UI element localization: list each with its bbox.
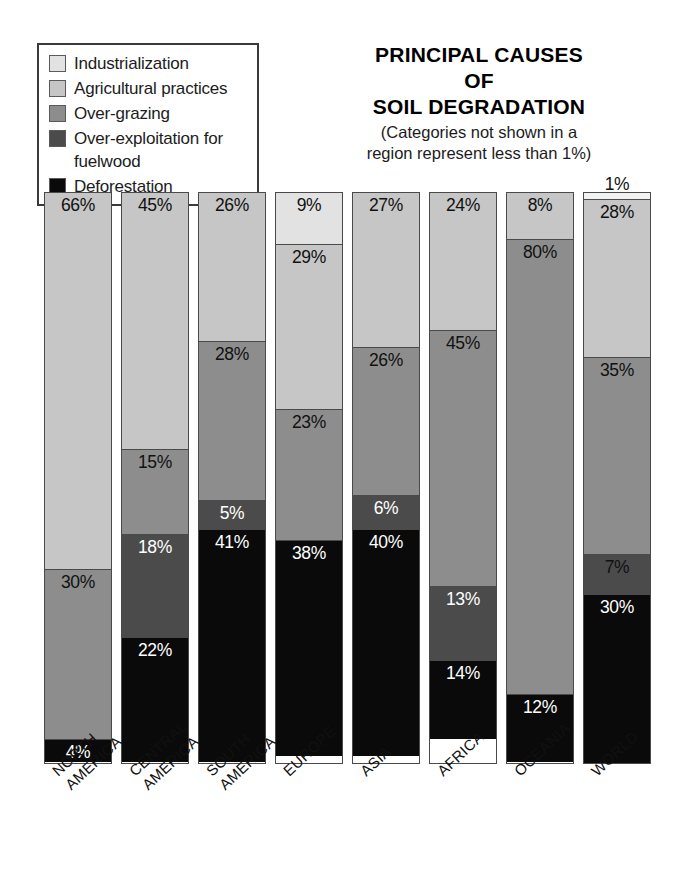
bar-segment-value-label: 8% — [507, 195, 573, 216]
legend-swatch-icon — [49, 105, 66, 122]
legend-swatch-icon — [49, 80, 66, 97]
bar-segment-value-label: 15% — [122, 452, 188, 473]
bar-segment-value-label: 45% — [430, 333, 496, 354]
subtitle-line-1: (Categories not shown in a — [296, 122, 662, 143]
bar-segment[interactable]: 18% — [122, 534, 188, 636]
bar-segment-value-label: 9% — [276, 195, 342, 216]
bar-segment[interactable]: 26% — [199, 193, 265, 341]
bar-segment-value-label: 66% — [45, 195, 111, 216]
title-line-1: PRINCIPAL CAUSES — [296, 42, 662, 68]
stacked-bar[interactable]: 45%15%18%22% — [121, 192, 189, 764]
bar-segment[interactable]: 5% — [199, 500, 265, 528]
bar-segment-value-label: 1% — [583, 174, 651, 194]
bar-segment[interactable]: 27% — [353, 193, 419, 347]
title-line-3: SOIL DEGRADATION — [296, 94, 662, 120]
bar-segment[interactable]: 80% — [507, 239, 573, 694]
legend-item-label: Industrialization — [74, 52, 189, 75]
bar-segment[interactable]: 28% — [199, 341, 265, 500]
title-line-2: OF — [296, 68, 662, 94]
legend-item[interactable]: Over-grazing — [49, 102, 249, 125]
bar-segment-value-label: 22% — [122, 640, 188, 661]
bar-segment-value-label: 41% — [199, 532, 265, 553]
bar-segment[interactable]: 23% — [276, 409, 342, 540]
bar-segment-value-label: 18% — [122, 537, 188, 558]
bar-segment[interactable]: 9% — [276, 193, 342, 244]
bar-segment-value-label: 14% — [430, 663, 496, 684]
bar-segment-value-label: 28% — [584, 202, 650, 223]
bar-segment[interactable]: 66% — [45, 193, 111, 569]
bar-segment-value-label: 12% — [507, 697, 573, 718]
stacked-bar[interactable]: 26%28%5%41% — [198, 192, 266, 764]
chart-legend: IndustrializationAgricultural practicesO… — [37, 43, 259, 206]
bar-segment-value-label: 30% — [45, 572, 111, 593]
legend-item[interactable]: Agricultural practices — [49, 77, 249, 100]
bar-segment[interactable]: 38% — [276, 540, 342, 756]
stacked-bar[interactable]: 24%45%13%14% — [429, 192, 497, 764]
bar-segment[interactable]: 6% — [353, 495, 419, 529]
legend-item-label: Over-grazing — [74, 102, 170, 125]
legend-item-label: Over-exploitation for fuelwood — [74, 127, 223, 173]
bar-segment[interactable]: 35% — [584, 357, 650, 555]
stacked-bar[interactable]: 8%80%12% — [506, 192, 574, 764]
stacked-bar[interactable]: 28%35%7%30% — [583, 192, 651, 764]
bar-segment[interactable]: 26% — [353, 347, 419, 495]
x-axis-labels: NORTHAMERICACENTRALAMERICASOUTHAMERICAEU… — [42, 766, 662, 884]
stacked-bar[interactable]: 9%29%23%38% — [275, 192, 343, 764]
bar-segment[interactable]: 24% — [430, 193, 496, 330]
bar-segment[interactable]: 7% — [584, 554, 650, 594]
bar-segment[interactable]: 13% — [430, 586, 496, 660]
bar-segment-value-label: 5% — [199, 503, 265, 524]
stacked-bar[interactable]: 66%30%4% — [44, 192, 112, 764]
bar-segment-value-label: 26% — [199, 195, 265, 216]
bar-segment-value-label: 27% — [353, 195, 419, 216]
bar-segment-value-label: 45% — [122, 195, 188, 216]
legend-swatch-icon — [49, 55, 66, 72]
stacked-bar-plot: 66%30%4%45%15%18%22%26%28%5%41%9%29%23%3… — [42, 192, 652, 764]
bar-segment[interactable]: 14% — [430, 660, 496, 740]
legend-swatch-icon — [49, 130, 66, 147]
bar-segment-value-label: 26% — [353, 350, 419, 371]
bar-segment-value-label: 35% — [584, 360, 650, 381]
bar-segment[interactable]: 40% — [353, 529, 419, 757]
bar-segment[interactable]: 28% — [584, 199, 650, 357]
bar-segment-value-label: 29% — [276, 247, 342, 268]
legend-item[interactable]: Industrialization — [49, 52, 249, 75]
chart-subtitle: (Categories not shown in a region repres… — [296, 122, 662, 164]
bar-segment[interactable]: 15% — [122, 449, 188, 534]
bar-segment-value-label: 80% — [507, 242, 573, 263]
bar-segment-value-label: 28% — [199, 344, 265, 365]
bar-segment-value-label: 24% — [430, 195, 496, 216]
bar-segment[interactable]: 8% — [507, 193, 573, 239]
legend-item-label: Agricultural practices — [74, 77, 227, 100]
subtitle-line-2: region represent less than 1%) — [296, 143, 662, 164]
bar-segment[interactable]: 30% — [45, 569, 111, 740]
bar-segment[interactable]: 45% — [430, 330, 496, 586]
bar-segment-value-label: 6% — [353, 498, 419, 519]
bar-segment-value-label: 7% — [584, 557, 650, 578]
bar-segment-value-label: 40% — [353, 532, 419, 553]
bar-segment-value-label: 38% — [276, 543, 342, 564]
bar-segment[interactable]: 29% — [276, 244, 342, 409]
bar-segment-value-label: 23% — [276, 412, 342, 433]
chart-title-block: PRINCIPAL CAUSES OF SOIL DEGRADATION (Ca… — [296, 42, 662, 164]
legend-item[interactable]: Over-exploitation for fuelwood — [49, 127, 249, 173]
bar-segment-value-label: 13% — [430, 589, 496, 610]
stacked-bar[interactable]: 27%26%6%40% — [352, 192, 420, 764]
bar-segment-value-label: 30% — [584, 597, 650, 618]
bar-segment[interactable]: 45% — [122, 193, 188, 449]
